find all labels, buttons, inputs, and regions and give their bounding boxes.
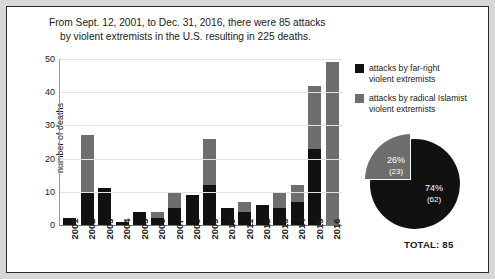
bar-2008 — [186, 59, 199, 225]
gridline-10 — [60, 192, 342, 193]
bar-2001 — [63, 59, 76, 225]
bar-2010 — [221, 59, 234, 225]
chart-title: From Sept. 12, 2001, to Dec. 31, 2016, t… — [49, 16, 349, 44]
pie-label-radical-islamist-pct: 26% — [387, 155, 405, 165]
pie-total-label: TOTAL: 85 — [404, 239, 453, 250]
bar-2016 — [326, 59, 339, 225]
y-axis-tick-40: 40 — [33, 87, 55, 97]
x-axis-label-2004: 2004 — [115, 227, 128, 273]
chart-title-line2: by violent extremists in the U.S. result… — [49, 30, 349, 44]
x-axis-label-2015: 2015 — [307, 227, 320, 273]
pie-label-far-right-count: (62) — [414, 194, 454, 205]
legend-label-radical-islamist-line1: attacks by radical Islamist — [369, 93, 467, 103]
bar-2003 — [98, 59, 111, 225]
gridline-40 — [60, 92, 342, 93]
legend-label-radical-islamist-line2: violent extremists — [369, 104, 435, 114]
bar-segment-radical-islamist-2006 — [151, 212, 164, 219]
y-axis-ticks: 01020304050 — [29, 59, 55, 225]
bar-segment-radical-islamist-2007 — [168, 192, 181, 209]
x-axis-label-2005: 2005 — [132, 227, 145, 273]
bar-2004 — [116, 59, 129, 225]
chart-title-line1: From Sept. 12, 2001, to Dec. 31, 2016, t… — [49, 17, 325, 28]
bar-2005 — [133, 59, 146, 225]
bar-2014 — [291, 59, 304, 225]
gridline-20 — [60, 159, 342, 160]
x-axis-label-2016: 2016 — [325, 227, 338, 273]
x-axis-label-2011: 2011 — [237, 227, 250, 273]
bar-segment-radical-islamist-2009 — [203, 139, 216, 185]
x-axis-label-2003: 2003 — [97, 227, 110, 273]
bar-group — [60, 59, 342, 225]
bar-segment-radical-islamist-2011 — [238, 202, 251, 212]
x-axis-label-2001: 2001 — [62, 227, 75, 273]
bar-2011 — [238, 59, 251, 225]
pie-label-radical-islamist-count: (23) — [376, 166, 416, 177]
x-axis-label-2006: 2006 — [150, 227, 163, 273]
x-axis-label-2012: 2012 — [255, 227, 268, 273]
bar-2002 — [81, 59, 94, 225]
chart-legend: attacks by far-right violent extremists … — [355, 63, 495, 123]
pie-label-far-right: 74% (62) — [414, 183, 454, 205]
legend-label-far-right: attacks by far-right violent extremists — [369, 63, 440, 84]
legend-label-far-right-line2: violent extremists — [369, 74, 435, 84]
legend-label-radical-islamist: attacks by radical Islamist violent extr… — [369, 93, 467, 114]
pie-chart: 26% (23) 74% (62) TOTAL: 85 — [352, 135, 495, 275]
pie-label-radical-islamist: 26% (23) — [376, 155, 416, 177]
bar-2015 — [308, 59, 321, 225]
gridline-30 — [60, 125, 342, 126]
legend-swatch-icon-radical-islamist — [355, 94, 364, 103]
bar-segment-radical-islamist-2013 — [273, 192, 286, 209]
bar-segment-radical-islamist-2016 — [326, 62, 339, 225]
bar-segment-radical-islamist-2015 — [308, 86, 321, 149]
legend-swatch-icon-far-right — [355, 64, 364, 73]
legend-item-far-right: attacks by far-right violent extremists — [355, 63, 495, 84]
x-axis-label-2013: 2013 — [272, 227, 285, 273]
figure-frame: From Sept. 12, 2001, to Dec. 31, 2016, t… — [6, 6, 489, 273]
x-axis-label-2010: 2010 — [220, 227, 233, 273]
x-axis-label-2014: 2014 — [290, 227, 303, 273]
legend-item-radical-islamist: attacks by radical Islamist violent extr… — [355, 93, 495, 114]
x-axis-label-2002: 2002 — [80, 227, 93, 273]
bar-2007 — [168, 59, 181, 225]
plot-area — [59, 59, 342, 226]
bar-2013 — [273, 59, 286, 225]
bar-segment-radical-islamist-2014 — [291, 185, 304, 202]
legend-label-far-right-line1: attacks by far-right — [369, 63, 440, 73]
gridline-50 — [60, 59, 342, 60]
bar-segment-radical-islamist-2002 — [81, 135, 94, 191]
x-axis-labels: 2001200220032004200520062007200820092010… — [59, 227, 341, 273]
x-axis-label-2008: 2008 — [185, 227, 198, 273]
x-axis-label-2007: 2007 — [167, 227, 180, 273]
bar-2012 — [256, 59, 269, 225]
bar-chart: number of deaths 01020304050 20012002200… — [21, 59, 341, 274]
y-axis-tick-0: 0 — [33, 220, 55, 230]
pie-label-far-right-pct: 74% — [425, 183, 443, 193]
y-axis-tick-50: 50 — [33, 54, 55, 64]
bar-2006 — [151, 59, 164, 225]
y-axis-tick-30: 30 — [33, 120, 55, 130]
y-axis-tick-10: 10 — [33, 187, 55, 197]
x-axis-label-2009: 2009 — [202, 227, 215, 273]
bar-segment-far-right-2015 — [308, 149, 321, 225]
pie-graphic: 26% (23) 74% (62) — [370, 139, 460, 229]
bar-2009 — [203, 59, 216, 225]
y-axis-tick-20: 20 — [33, 154, 55, 164]
figure-outer-border: From Sept. 12, 2001, to Dec. 31, 2016, t… — [0, 0, 495, 279]
